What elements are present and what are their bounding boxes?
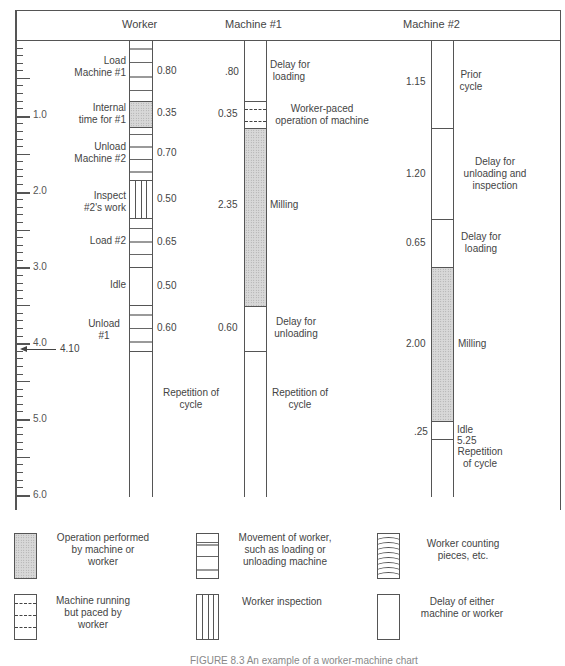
worker-activity-time: 0.80 [157, 65, 176, 76]
worker-activity-time: 0.70 [157, 147, 176, 158]
machine-1-segment-delay-loading [245, 40, 266, 101]
machine-1-bar [244, 40, 267, 497]
worker-segment-inspect [130, 180, 152, 218]
machine-2-bar [431, 40, 454, 497]
worker-repetition-label: Repetition ofcycle [153, 387, 229, 411]
machine-2-segment-prior-cycle [432, 40, 453, 128]
worker-activity-label: UnloadMachine #2 [55, 141, 126, 165]
worker-activity-label: Internaltime for #1 [55, 102, 126, 126]
axis-tick [16, 101, 23, 102]
axis-tick [16, 48, 23, 49]
column-title-worker: Worker [122, 18, 157, 30]
axis-tick [16, 169, 23, 170]
machine-2-activity-label: Priorcycle [456, 69, 486, 93]
worker-activity-time: 0.35 [157, 107, 176, 118]
axis-tick [16, 55, 23, 56]
axis-tick [16, 131, 23, 132]
axis-tick [16, 123, 23, 124]
machine-1-segment-milling [245, 128, 266, 306]
axis-tick [16, 381, 30, 382]
machine-1-activity-label: Delay forunloading [268, 316, 324, 340]
axis-tick [16, 411, 23, 412]
axis-label-2: 2.0 [33, 185, 47, 196]
axis-tick [16, 70, 23, 71]
axis-tick [16, 366, 23, 367]
cycle-end-value: 4.10 [60, 343, 79, 354]
axis-tick [16, 63, 23, 64]
machine-2-activity-label: Milling [458, 338, 486, 350]
machine-2-segment-delay-unloading [432, 128, 453, 219]
worker-segment-repetition [130, 351, 152, 497]
axis-tick [16, 374, 23, 375]
worker-activity-time: 0.50 [157, 193, 176, 204]
axis-tick [16, 176, 23, 177]
axis-tick [16, 457, 30, 458]
axis-tick [16, 139, 23, 140]
machine-1-segment-repetition [245, 351, 266, 497]
axis-tick [16, 108, 23, 109]
legend-swatch-operation [14, 533, 37, 579]
machine-1-activity-time: 2.35 [218, 199, 237, 210]
legend-label-counting: Worker countingpieces, etc. [408, 538, 518, 562]
legend-label-delay: Delay of eithermachine or worker [412, 596, 512, 620]
axis-tick [16, 313, 23, 314]
axis-tick [16, 260, 23, 261]
axis-tick [16, 442, 23, 443]
axis-tick [16, 78, 30, 79]
worker-activity-label: Idle [55, 279, 126, 291]
worker-activity-label: Unload#1 [80, 318, 128, 342]
machine-1-activity-time: 0.35 [218, 108, 237, 119]
axis-tick [16, 154, 30, 155]
machine-2-activity-time: 1.20 [406, 168, 425, 179]
axis-tick [16, 199, 23, 200]
axis-tick [16, 328, 23, 329]
axis-tick [16, 389, 23, 390]
axis-tick [16, 290, 23, 291]
worker-segment-internal [130, 101, 152, 127]
legend-swatch-movement [196, 533, 219, 579]
axis-tick [16, 472, 23, 473]
axis-tick [16, 343, 30, 345]
axis-tick [16, 93, 23, 94]
machine-1-activity-label: Delay for loading [270, 59, 310, 83]
worker-bar [129, 40, 153, 497]
axis-tick [16, 283, 23, 284]
figure-caption: FIGURE 8.3 An example of a worker-machin… [190, 655, 418, 666]
machine-2-segment-milling [432, 267, 453, 421]
axis-label-5: 5.0 [33, 413, 47, 424]
legend-label-inspection: Worker inspection [232, 596, 332, 608]
worker-activity-time: 0.50 [157, 280, 176, 291]
axis-tick [16, 487, 23, 488]
worker-segment-unload-m2 [130, 127, 152, 180]
worker-activity-label: Load #2 [55, 235, 126, 247]
cycle-end-arrow [22, 349, 56, 350]
machine-2-segment-idle [432, 421, 453, 439]
legend-swatch-delay [377, 594, 400, 640]
axis-tick [16, 495, 30, 497]
worker-activity-time: 0.60 [157, 322, 176, 333]
axis-tick [16, 207, 23, 208]
axis-tick [16, 449, 23, 450]
axis-label-6: 6.0 [33, 489, 47, 500]
worker-activity-label: Inspect#2's work [55, 190, 126, 214]
column-title-machine-1: Machine #1 [225, 18, 282, 30]
machine-1-activity-time: 0.60 [218, 322, 237, 333]
machine-2-activity-label: Delay forloading [456, 231, 506, 255]
axis-tick [16, 480, 23, 481]
axis-tick [16, 146, 23, 147]
axis-tick [16, 267, 30, 269]
legend-label-paced: Machine runningbut paced byworker [48, 595, 138, 631]
machine-1-activity-label: Milling [270, 199, 298, 211]
axis-tick [16, 252, 23, 253]
worker-segment-idle [130, 267, 152, 305]
machine-2-segment-repetition [432, 439, 453, 497]
worker-activity-time: 0.65 [157, 236, 176, 247]
axis-tick [16, 305, 30, 306]
axis-tick [16, 116, 30, 118]
axis-tick [16, 336, 23, 337]
axis-tick [16, 184, 23, 185]
axis-tick [16, 396, 23, 397]
axis-tick [16, 192, 30, 194]
machine-1-activity-time: .80 [225, 66, 239, 77]
arrow-left-icon [20, 346, 27, 352]
